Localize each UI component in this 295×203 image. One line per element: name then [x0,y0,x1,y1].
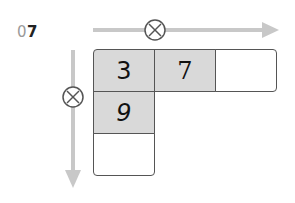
column-cell-1: 9 [93,91,155,134]
row-cell-2: 7 [154,49,216,92]
row-cell-1: 3 [93,49,155,92]
horizontal-arrow-head-icon [262,22,279,38]
vertical-arrow-head-icon [65,170,81,188]
row-cell-answer[interactable] [215,49,277,92]
column-cell-answer[interactable] [93,133,155,176]
